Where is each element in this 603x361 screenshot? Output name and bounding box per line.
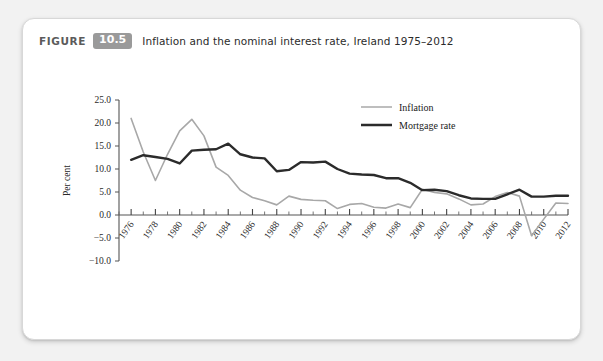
- x-axis-tick-label: 1996: [359, 219, 378, 241]
- x-axis-tick-label: 1992: [311, 219, 330, 241]
- x-axis-tick-label: 1976: [117, 219, 136, 241]
- x-axis-tick-label: 1988: [262, 219, 281, 241]
- x-axis-tick-label: 2010: [529, 219, 548, 241]
- y-axis-tick-label: 15.0: [94, 141, 111, 151]
- y-axis-tick-label: 5.0: [99, 187, 111, 197]
- x-axis-tick-label: 2006: [481, 219, 500, 241]
- x-axis-tick-label: 1990: [287, 219, 306, 241]
- y-axis-title: Per cent: [62, 165, 72, 196]
- series-line-mortgage-rate: [131, 144, 568, 199]
- x-axis-tick-label: 1986: [238, 219, 257, 241]
- x-axis-tick-label: 2012: [554, 219, 573, 241]
- x-axis-tick-label: 2002: [432, 219, 451, 241]
- figure-page: FIGURE 10.5 Inflation and the nominal in…: [0, 0, 603, 361]
- legend-label-mortgage-rate: Mortgage rate: [399, 120, 456, 131]
- figure-card: FIGURE 10.5 Inflation and the nominal in…: [22, 18, 581, 340]
- x-axis-tick-label: 1980: [165, 219, 184, 241]
- y-axis-tick-label: −10.0: [89, 256, 111, 266]
- legend-label-inflation: Inflation: [399, 102, 433, 113]
- figure-number-badge: 10.5: [93, 33, 132, 49]
- figure-title: Inflation and the nominal interest rate,…: [142, 35, 453, 47]
- x-axis-tick-label: 1982: [189, 219, 208, 241]
- x-axis-tick-label: 1998: [384, 219, 403, 241]
- x-axis-tick-label: 2000: [408, 219, 427, 241]
- y-axis-tick-label: −5.0: [94, 233, 111, 243]
- figure-label: FIGURE: [39, 35, 86, 47]
- chart-plot-area: 25.020.015.010.05.00.0−5.0−10.0Per cent1…: [23, 49, 581, 339]
- line-chart: 25.020.015.010.05.00.0−5.0−10.0Per cent1…: [23, 49, 581, 339]
- series-line-inflation: [131, 118, 568, 235]
- figure-header: FIGURE 10.5 Inflation and the nominal in…: [39, 33, 453, 49]
- y-axis-tick-label: 10.0: [94, 164, 111, 174]
- x-axis-tick-label: 1978: [141, 219, 160, 241]
- x-axis-tick-label: 1994: [335, 219, 354, 241]
- x-axis-tick-label: 2004: [456, 219, 475, 241]
- x-axis-tick-label: 1984: [214, 219, 233, 241]
- x-axis-tick-label: 2008: [505, 219, 524, 241]
- y-axis-tick-label: 20.0: [94, 118, 111, 128]
- y-axis-tick-label: 0.0: [99, 210, 111, 220]
- y-axis-tick-label: 25.0: [94, 95, 111, 105]
